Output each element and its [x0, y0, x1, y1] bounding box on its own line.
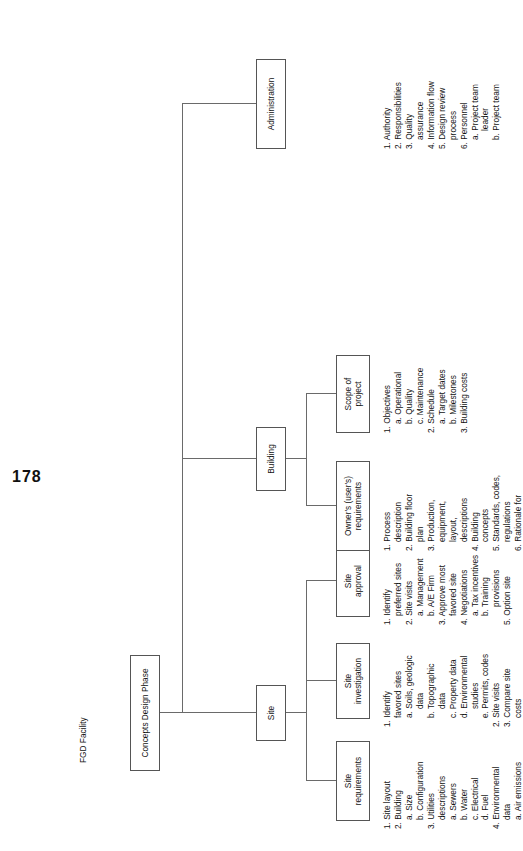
detail-item: 2. Site visits — [491, 654, 502, 727]
detail-item: d. Fuel — [480, 747, 491, 829]
detail-list-owners-requirements: 1. Processdescription2. Building floorpl… — [382, 475, 523, 551]
node-administration[interactable]: Administration — [256, 59, 286, 149]
detail-item: a. Project team — [470, 81, 481, 149]
detail-item: data — [437, 654, 448, 727]
detail-item: a. Management — [415, 555, 426, 625]
detail-item: 5. Option site — [502, 555, 513, 625]
detail-list-scope-of-project: 1. Objectivesa. Operationalb. Qualityc. … — [382, 368, 470, 433]
detail-item: 3. Approve most — [437, 555, 448, 625]
detail-item: 1. Process — [382, 475, 393, 551]
detail-item: d. Environmental — [459, 654, 470, 727]
detail-item: description — [393, 475, 404, 551]
detail-list-administration: 1. Authority2. Responsibilities3. Qualit… — [382, 81, 502, 149]
node-building[interactable]: Building — [256, 427, 286, 491]
detail-item: regulations — [502, 475, 513, 551]
detail-item: 3. Building costs — [459, 368, 470, 433]
node-site-approval[interactable]: Siteapproval — [336, 545, 370, 617]
node-site-requirements[interactable]: Siterequirements — [336, 741, 370, 821]
detail-item: a. Soils, geologic — [404, 654, 415, 727]
detail-item: a. Size — [404, 747, 415, 829]
detail-item: favored site — [448, 555, 459, 625]
connector-owners-requirements-drop — [306, 505, 336, 506]
detail-item: 5. Design review — [437, 81, 448, 149]
node-label: Siteapproval — [343, 565, 364, 597]
connector-level1-bus — [182, 104, 183, 713]
detail-item: a. Operational — [393, 368, 404, 433]
connector-trunk-vertical — [160, 712, 182, 713]
connector-drop-site — [182, 712, 256, 713]
detail-item: 4. Information flow — [426, 81, 437, 149]
detail-item: equipment, — [437, 475, 448, 551]
connector-building-stem — [286, 458, 306, 459]
detail-item: 4. Environmental — [491, 747, 502, 829]
connector-scope-of-project-drop — [306, 393, 336, 394]
detail-item: a. Tax incentives — [470, 555, 481, 625]
detail-list-site-approval: 1. Identifypreferred sites2. Site visits… — [382, 555, 513, 625]
node-label: Owner's (user's)requirements — [343, 476, 364, 536]
detail-item: e. Permits, codes — [480, 654, 491, 727]
detail-item: 4. Negotiations — [459, 555, 470, 625]
connector-site-requirements-drop — [306, 780, 336, 781]
detail-list-site-investigation: 1. Identifyfavored sitesa. Soils, geolog… — [382, 654, 523, 727]
detail-item: 3. Utilities — [426, 747, 437, 829]
detail-item: a. Air emissions — [513, 747, 523, 829]
connector-drop-administration — [182, 103, 256, 104]
detail-item: c. Maintenance — [415, 368, 426, 433]
detail-item: favored sites — [393, 654, 404, 727]
node-label: Scope ofproject — [343, 378, 364, 411]
detail-item: 2. Site visits — [404, 555, 415, 625]
detail-item: a. Sewers — [448, 747, 459, 829]
detail-item: b. Water — [459, 747, 470, 829]
detail-item: descriptions — [459, 475, 470, 551]
connector-site-stem — [286, 712, 306, 713]
detail-item: 1. Authority — [382, 81, 393, 149]
connector-building-bus — [306, 394, 307, 506]
node-label: Administration — [266, 78, 276, 131]
figure-canvas: FGD Facility Concepts Design Phase Site … — [0, 0, 523, 851]
detail-item: costs — [513, 654, 523, 727]
detail-item: b. Quality — [404, 368, 415, 433]
node-owners-requirements[interactable]: Owner's (user's)requirements — [336, 461, 370, 551]
detail-item: 6. Rationale for — [513, 475, 523, 551]
detail-item: 1. Objectives — [382, 368, 393, 433]
detail-item: layout, — [448, 475, 459, 551]
detail-item: b. Configuration — [415, 747, 426, 829]
detail-item: 1. Site layout — [382, 747, 393, 829]
detail-item: data — [502, 747, 513, 829]
connector-site-investigation-drop — [306, 680, 336, 681]
detail-item: 1. Identify — [382, 654, 393, 727]
detail-item: a. Target dates — [437, 368, 448, 433]
detail-item: b. Project team — [491, 81, 502, 149]
detail-item: c. Property data — [448, 654, 459, 727]
node-concepts-design-phase[interactable]: Concepts Design Phase — [130, 655, 160, 771]
node-site[interactable]: Site — [256, 685, 286, 741]
node-scope-of-project[interactable]: Scope ofproject — [336, 355, 370, 433]
detail-item: 2. Schedule — [426, 368, 437, 433]
node-label: Site — [266, 706, 276, 720]
node-label: Building — [266, 444, 276, 474]
detail-item: plan — [415, 475, 426, 551]
detail-item: b. Training — [480, 555, 491, 625]
figure-root-label: FGD Facility — [78, 717, 88, 763]
node-label: Siteinvestigation — [343, 658, 364, 704]
node-site-investigation[interactable]: Siteinvestigation — [336, 643, 370, 719]
detail-item: 2. Responsibilities — [393, 81, 404, 149]
node-label: Concepts Design Phase — [140, 669, 150, 758]
node-label: Siterequirements — [343, 757, 364, 805]
detail-item: 2. Building floor — [404, 475, 415, 551]
detail-item: 3. Quality — [404, 81, 415, 149]
connector-site-approval-drop — [306, 580, 336, 581]
detail-item: preferred sites — [393, 555, 404, 625]
detail-item: process — [448, 81, 459, 149]
detail-item: c. Electrical — [470, 747, 481, 829]
detail-item: provisions — [491, 555, 502, 625]
detail-item: descriptions — [437, 747, 448, 829]
detail-item: 1. Identify — [382, 555, 393, 625]
detail-item: 4. Building — [470, 475, 481, 551]
connector-drop-building — [182, 458, 256, 459]
detail-item: 3. Compare site — [502, 654, 513, 727]
detail-item: 2. Building — [393, 747, 404, 829]
connector-site-bus — [306, 581, 307, 781]
detail-item: concepts — [480, 475, 491, 551]
detail-list-site-requirements: 1. Site layout2. Buildinga. Sizeb. Confi… — [382, 747, 523, 829]
